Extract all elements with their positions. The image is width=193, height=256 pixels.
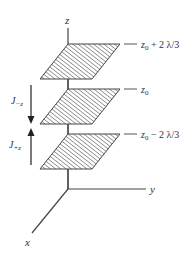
current-arrow-down xyxy=(28,85,35,124)
current-sheet-diagram: z y x z0 + 2 λ/3 z0 z0 − 2 λ/3 J−z J+z xyxy=(0,0,193,256)
plane-middle-label: z0 xyxy=(140,84,149,97)
plane-bottom xyxy=(40,134,137,169)
plane-middle xyxy=(40,89,137,124)
current-down-label: J−z xyxy=(11,95,23,108)
current-up-label: J+z xyxy=(9,139,21,152)
y-axis-label: y xyxy=(149,183,155,195)
plane-top xyxy=(40,44,137,79)
diagram-canvas: z y x z0 + 2 λ/3 z0 z0 − 2 λ/3 J−z J+z xyxy=(0,0,193,256)
plane-bottom-label: z0 − 2 λ/3 xyxy=(140,129,179,142)
plane-top-label: z0 + 2 λ/3 xyxy=(140,39,179,52)
x-axis xyxy=(32,189,68,233)
z-axis-label: z xyxy=(64,14,70,26)
x-axis-label: x xyxy=(24,236,30,248)
current-arrow-up xyxy=(28,128,35,165)
